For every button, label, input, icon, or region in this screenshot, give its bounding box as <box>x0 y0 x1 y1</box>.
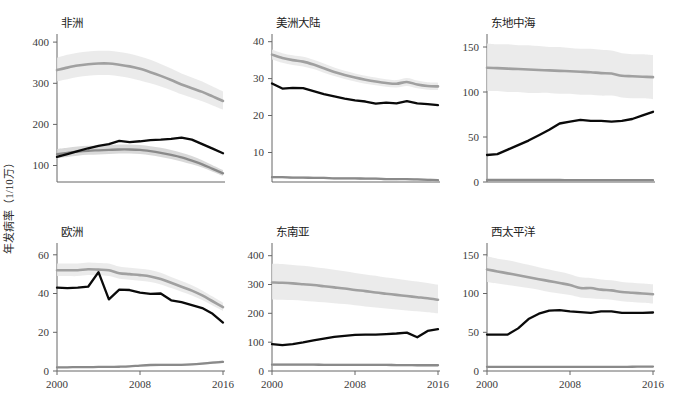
x-tick-label: 2008 <box>129 378 152 390</box>
mortality-line <box>57 362 223 367</box>
panel-3: 东地中海050100150 <box>463 16 656 188</box>
y-tick-label: 200 <box>248 307 265 319</box>
y-tick-label: 20 <box>253 109 265 121</box>
x-tick-label: 2000 <box>476 378 499 390</box>
y-tick-label: 20 <box>38 326 50 338</box>
panel-4: 欧洲0204060200020082016 <box>38 226 235 390</box>
mortality-line <box>272 365 438 366</box>
x-tick-label: 2008 <box>344 378 367 390</box>
y-tick-label: 150 <box>463 249 480 261</box>
chart-svg: 非洲100200300400美洲大陆10203040东地中海050100150欧… <box>0 0 678 411</box>
y-tick-label: 150 <box>463 41 480 53</box>
x-tick-label: 2008 <box>559 378 582 390</box>
panel-title: 美洲大陆 <box>276 16 320 29</box>
y-tick-label: 400 <box>33 36 50 48</box>
y-tick-label: 400 <box>248 249 265 261</box>
y-tick-label: 0 <box>259 365 265 377</box>
mortality-line <box>272 177 438 180</box>
y-tick-label: 0 <box>474 176 480 188</box>
y-tick-label: 60 <box>38 249 50 261</box>
x-tick-label: 2016 <box>642 378 665 390</box>
y-tick-label: 50 <box>468 326 480 338</box>
figure-panel-grid: 年发病率（1/10万） 非洲100200300400美洲大陆10203040东地… <box>0 0 678 411</box>
y-tick-label: 0 <box>44 365 50 377</box>
incidence-uncertainty-band <box>57 51 223 110</box>
notification-line <box>272 329 438 345</box>
notification-line <box>487 310 653 334</box>
x-tick-label: 2016 <box>212 378 235 390</box>
panel-title: 西太平洋 <box>491 225 536 238</box>
y-tick-label: 0 <box>474 365 480 377</box>
panel-1: 非洲100200300400 <box>33 17 226 182</box>
panel-title: 非洲 <box>61 17 83 29</box>
panel-6: 西太平洋050100150200020082016 <box>463 225 665 390</box>
y-tick-label: 100 <box>248 336 265 348</box>
y-tick-label: 30 <box>253 72 265 84</box>
panel-title: 欧洲 <box>61 226 83 238</box>
panel-title: 东南亚 <box>276 225 309 238</box>
panel-5: 东南亚0100200300400200020082016 <box>248 225 450 390</box>
y-tick-label: 200 <box>33 118 50 130</box>
y-tick-label: 100 <box>463 287 480 299</box>
panel-title: 东地中海 <box>491 16 536 29</box>
x-tick-label: 2016 <box>427 378 450 390</box>
y-tick-label: 40 <box>38 287 50 299</box>
x-tick-label: 2000 <box>261 378 284 390</box>
y-tick-label: 50 <box>468 131 480 143</box>
notification-line <box>487 112 653 155</box>
y-tick-label: 100 <box>33 159 50 171</box>
panel-2: 美洲大陆10203040 <box>253 16 440 182</box>
y-tick-label: 100 <box>463 86 480 98</box>
y-tick-label: 10 <box>253 146 265 158</box>
incidence-uncertainty-band <box>272 264 438 314</box>
incidence-uncertainty-band <box>487 256 653 303</box>
y-tick-label: 300 <box>248 278 265 290</box>
x-tick-label: 2000 <box>46 378 69 390</box>
y-tick-label: 300 <box>33 77 50 89</box>
y-tick-label: 40 <box>253 35 265 47</box>
